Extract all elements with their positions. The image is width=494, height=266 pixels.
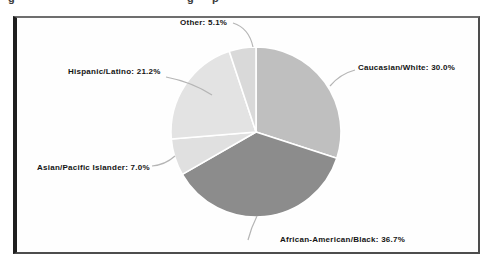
leader-line-asian-pacific-islander [152,156,175,166]
leader-line-other [233,23,253,47]
slice-label-hispanic-latino: Hispanic/Latino: 21.2% [68,67,161,76]
slice-label-other: Other: 5.1% [180,18,227,27]
scanned-pie-chart-page: g g p Other: 5.1% Hispanic/Latino: 21.2%… [0,0,494,266]
slice-label-caucasian-white: Caucasian/White: 30.0% [358,63,455,72]
leader-line-caucasian-white [330,70,355,86]
slice-label-african-american-black: African-American/Black: 36.7% [280,235,405,244]
slice-label-asian-pacific-islander: Asian/Pacific Islander: 7.0% [37,163,150,172]
leader-line-african-american-black [248,216,257,240]
pie-chart [0,0,494,266]
